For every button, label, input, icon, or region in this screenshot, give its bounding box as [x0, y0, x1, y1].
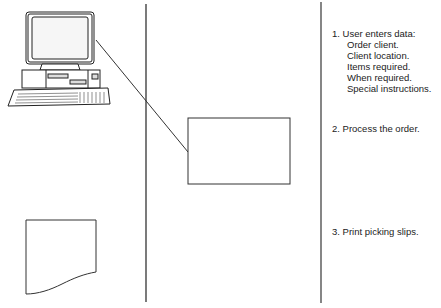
process-box — [188, 118, 290, 184]
step-3-title: 3. Print picking slips. — [332, 226, 419, 237]
step-1-detail: Client location. — [332, 50, 431, 61]
step-1-title: 1. User enters data: — [332, 28, 431, 39]
step-2-title: 2. Process the order. — [332, 123, 420, 134]
step-3-description: 3. Print picking slips. — [332, 226, 419, 237]
step-1-detail: When required. — [332, 72, 431, 83]
step-2-description: 2. Process the order. — [332, 123, 420, 134]
step-1-detail: Special instructions. — [332, 83, 431, 94]
step-1-description: 1. User enters data: Order client. Clien… — [332, 28, 431, 94]
computer-terminal-icon — [8, 12, 110, 106]
step-1-detail: Items required. — [332, 61, 431, 72]
document-icon — [26, 220, 96, 294]
connector-line — [96, 40, 188, 152]
step-1-detail: Order client. — [332, 39, 431, 50]
